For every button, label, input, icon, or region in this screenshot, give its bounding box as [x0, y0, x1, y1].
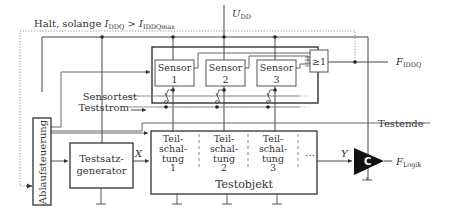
sensor-3: Sensor 3 — [257, 60, 296, 86]
f-logik-label: FLogik — [395, 156, 421, 169]
teststrom-label: Teststrom — [79, 102, 130, 113]
ablaufsteuerung-block: Ablaufsteuerung — [33, 118, 51, 205]
svg-text:1: 1 — [170, 162, 176, 173]
testende-line — [51, 123, 430, 131]
svg-text:2: 2 — [221, 162, 227, 173]
svg-text:Testsatz-: Testsatz- — [79, 153, 124, 164]
f-iddq-label: FIDDQ — [395, 56, 421, 69]
comparator: C — [354, 148, 384, 175]
block-diagram: Halt, solange IDDQ > IIDDQmax UDD Sensor… — [0, 0, 457, 219]
svg-text:generator: generator — [76, 165, 126, 176]
x-signal-label: X — [134, 148, 143, 159]
sensortest-label: Sensortest — [83, 91, 137, 102]
testende-label: Testende — [378, 118, 424, 129]
sensor-2: Sensor 2 — [206, 60, 245, 86]
svg-text:3: 3 — [270, 162, 276, 173]
svg-text:2: 2 — [222, 74, 228, 85]
svg-text:≥1: ≥1 — [312, 56, 326, 67]
svg-text:1: 1 — [171, 74, 177, 85]
testsatzgenerator-block: Testsatz- generator — [70, 143, 133, 188]
svg-text:Sensor: Sensor — [158, 62, 192, 73]
svg-text:Sensor: Sensor — [260, 62, 294, 73]
halt-condition-label: Halt, solange IDDQ > IIDDQmax — [34, 18, 175, 31]
svg-text:Sensor: Sensor — [209, 62, 243, 73]
svg-text:C: C — [364, 156, 371, 167]
y-signal-label: Y — [341, 148, 349, 159]
udd-label: UDD — [232, 8, 251, 21]
svg-text:Testobjekt: Testobjekt — [215, 178, 273, 191]
svg-text:Ablaufsteuerung: Ablaufsteuerung — [37, 119, 48, 205]
sensor-1: Sensor 1 — [155, 60, 194, 86]
svg-text:3: 3 — [273, 74, 279, 85]
svg-text:…: … — [305, 147, 315, 158]
